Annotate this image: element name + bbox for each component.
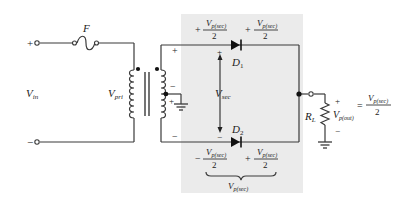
center-tap-junction [164,92,169,97]
center-tap-plus: + [169,96,174,106]
primary-polarity-dot [136,67,140,71]
primary-coil-icon [130,70,135,118]
input-minus-label: − [27,136,33,148]
vsec-plus: + [217,47,222,57]
load-minus: − [335,126,340,136]
input-top-terminal [35,41,39,45]
bottom-right-denominator: 2 [263,160,268,170]
secondary-shaded-region [181,14,303,193]
fuse-icon [77,36,95,50]
load-plus: + [335,96,340,106]
rl-label: RL [304,110,316,124]
top-left-denominator: 2 [212,31,217,41]
load-ground-icon [318,142,332,148]
equals-sign: = [357,100,363,111]
center-tap-minus: − [170,81,176,92]
secondary-polarity-dot [155,67,159,71]
top-right-denominator: 2 [263,31,268,41]
rectifier-circuit-diagram: + − Vin F Vpri + − + − + Vsec − D1 D2 + … [0,0,410,209]
secondary-bottom-minus: − [172,131,178,142]
top-left-sign: + [195,24,201,35]
fuse-left-terminal [73,41,77,45]
input-bottom-terminal [35,140,39,144]
output-junction [296,91,301,96]
bottom-left-denominator: 2 [212,160,217,170]
fuse-label: F [82,22,90,34]
vsec-minus: − [217,132,222,142]
output-numerator: Vp(sec) [368,93,388,105]
bottom-right-sign: + [245,153,251,164]
fuse-right-terminal [95,41,99,45]
vout-label: Vp(out) [333,109,354,122]
vpri-label: Vpri [108,87,123,101]
secondary-top-plus: + [172,45,178,56]
vin-label: Vin [26,87,39,101]
load-resistor-icon [321,103,329,125]
bottom-left-sign: − [195,153,201,164]
input-plus-label: + [27,37,33,49]
output-denominator: 2 [375,107,380,117]
output-terminal [309,92,313,96]
top-right-sign: + [245,24,251,35]
